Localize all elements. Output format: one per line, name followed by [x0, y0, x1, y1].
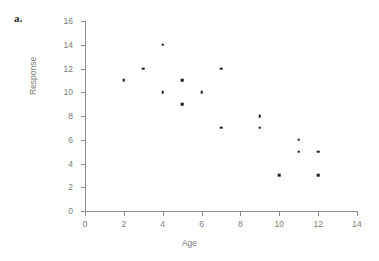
y-tick-label: 4 — [68, 159, 73, 169]
x-tick-label: 6 — [199, 219, 204, 229]
y-tick-mark: 8 — [81, 116, 85, 117]
y-tick-label: 8 — [68, 111, 73, 121]
data-point — [278, 174, 281, 177]
x-tick-mark — [279, 212, 280, 216]
y-tick-mark: 14 — [81, 45, 85, 46]
x-tick-mark — [202, 212, 203, 216]
x-tick-label: 4 — [160, 219, 165, 229]
scatter-plot-figure: a. Response Age 0246810121416 0246810121… — [0, 0, 379, 261]
y-tick-label: 14 — [64, 40, 73, 50]
x-tick-label: 0 — [83, 219, 88, 229]
x-tick-mark — [85, 212, 86, 216]
y-tick-label: 0 — [68, 206, 73, 216]
x-tick-label: 10 — [275, 219, 284, 229]
x-tick-mark — [357, 212, 358, 216]
y-axis-line — [85, 21, 86, 212]
x-tick-mark — [124, 212, 125, 216]
data-point — [123, 79, 126, 82]
x-tick-mark — [318, 212, 319, 216]
x-tick-mark — [240, 212, 241, 216]
x-axis-line — [85, 211, 358, 212]
data-point — [297, 150, 300, 153]
data-point — [161, 91, 164, 94]
y-axis-title: Response — [28, 57, 38, 95]
data-point — [161, 43, 164, 46]
x-axis-title: Age — [0, 238, 379, 248]
x-tick-label: 8 — [238, 219, 243, 229]
x-tick-label: 12 — [313, 219, 322, 229]
x-tick-label: 2 — [121, 219, 126, 229]
data-point — [259, 115, 262, 118]
y-tick-label: 12 — [64, 64, 73, 74]
y-tick-mark: 6 — [81, 140, 85, 141]
data-point — [220, 127, 223, 130]
plot-area: 0246810121416 02468101214 — [85, 21, 357, 211]
data-point — [181, 79, 184, 82]
y-tick-label: 6 — [68, 135, 73, 145]
y-tick-label: 10 — [64, 87, 73, 97]
y-tick-mark: 10 — [81, 92, 85, 93]
y-tick-mark: 2 — [81, 187, 85, 188]
data-point — [259, 127, 262, 130]
data-point — [317, 174, 320, 177]
y-tick-mark: 16 — [81, 21, 85, 22]
y-tick-label: 2 — [68, 182, 73, 192]
panel-label: a. — [14, 12, 23, 24]
y-tick-mark: 12 — [81, 69, 85, 70]
data-point — [317, 150, 320, 153]
data-point — [200, 91, 203, 94]
data-point — [297, 138, 300, 141]
data-point — [220, 67, 223, 70]
data-point — [142, 67, 145, 70]
x-tick-mark — [163, 212, 164, 216]
y-tick-mark: 4 — [81, 164, 85, 165]
y-tick-label: 16 — [64, 16, 73, 26]
x-tick-label: 14 — [352, 219, 361, 229]
data-point — [181, 103, 184, 106]
